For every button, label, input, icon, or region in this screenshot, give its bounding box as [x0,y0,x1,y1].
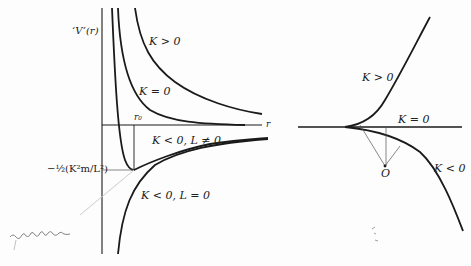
label-k-zero-left: K = 0 [139,86,170,97]
left-axes [102,8,262,254]
label-k-neg-l-nonzero: K < 0, L ≠ 0 [152,135,221,146]
x-axis-label: r [266,120,270,129]
construction-lines [360,125,400,166]
curve-k-positive-left [135,8,262,114]
diagram-graphics [0,0,471,266]
label-k-neg-l-zero: K < 0, L = 0 [141,190,210,201]
label-k-zero-right: K = 0 [398,114,429,125]
label-center-o: O [381,168,390,179]
y-axis-label: ‘V’(r) [72,26,99,36]
label-k-negative-right: K < 0 [434,163,465,174]
handwritten-equilibrium [10,232,70,239]
r0-label: r₀ [134,113,142,122]
curve-k-negative-right [345,127,463,231]
min-value-label: −½(K²m/L²) [47,164,108,174]
label-k-positive-left: K > 0 [149,36,180,47]
label-k-positive-right: K > 0 [362,72,393,83]
curve-k-zero-left [118,8,245,125]
diagram-canvas: ‘V’(r) r r₀ −½(K²m/L²) K > 0 K = 0 K < 0… [0,0,471,266]
